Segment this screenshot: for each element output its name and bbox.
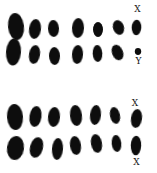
male-row2-autosome-1 <box>5 38 22 66</box>
female-x-chromosome-top <box>130 108 144 128</box>
male-row1-autosome-3 <box>48 20 60 38</box>
x-chromosome-label-male: X <box>134 5 140 14</box>
male-y-chromosome <box>135 48 141 55</box>
male-row2-autosome-6 <box>109 43 125 62</box>
male-row1-autosome-2 <box>28 18 42 39</box>
karyotype-figure: X Y X X <box>0 0 157 173</box>
female-row1-autosome-1 <box>6 103 24 130</box>
female-row2-autosome-6 <box>111 135 122 153</box>
female-row1-autosome-5 <box>89 104 102 125</box>
male-row2-autosome-2 <box>28 44 42 64</box>
male-row2-autosome-5 <box>92 45 102 62</box>
male-row2-autosome-3 <box>49 47 61 65</box>
female-row1-autosome-4 <box>69 104 83 126</box>
female-row2-autosome-3 <box>51 138 64 161</box>
female-row1-autosome-2 <box>28 105 43 127</box>
x-chromosome-label-female-top: X <box>132 98 138 107</box>
female-row1-autosome-6 <box>108 106 121 125</box>
female-row1-autosome-3 <box>47 107 61 128</box>
female-row2-autosome-5 <box>89 133 103 154</box>
male-row1-autosome-5 <box>93 22 103 37</box>
male-row1-autosome-1 <box>7 12 26 41</box>
male-x-chromosome <box>131 19 141 35</box>
female-row2-autosome-1 <box>6 135 26 161</box>
male-row1-autosome-4 <box>71 18 84 39</box>
male-row1-autosome-6 <box>111 19 126 37</box>
male-row2-autosome-4 <box>71 45 83 65</box>
female-row2-autosome-4 <box>69 135 83 155</box>
female-row2-autosome-2 <box>28 136 46 160</box>
y-chromosome-label-male: Y <box>136 56 142 65</box>
female-x-chromosome-bottom <box>130 136 141 156</box>
chromosome-blobs-svg <box>0 0 157 173</box>
x-chromosome-label-female-bottom: X <box>133 157 139 166</box>
